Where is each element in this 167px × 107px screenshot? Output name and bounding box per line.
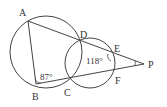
label-P: P (148, 59, 154, 70)
label-A: A (19, 7, 27, 18)
label-B: B (32, 91, 39, 102)
angle-arc-E (108, 54, 111, 61)
segment-AB (28, 21, 36, 84)
angle-value-B: 87° (40, 72, 53, 82)
label-F: F (115, 75, 121, 86)
label-D: D (80, 29, 87, 40)
geometry-diagram: A B C D E F P 87° 118° (0, 0, 167, 107)
label-C: C (64, 87, 71, 98)
label-E: E (114, 43, 120, 54)
angle-value-E: 118° (86, 56, 103, 66)
